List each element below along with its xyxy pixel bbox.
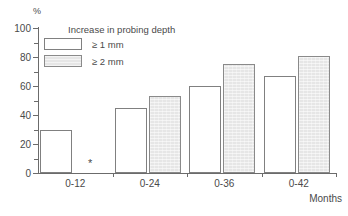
x-axis-title: Months <box>309 193 342 204</box>
y-axis-tick-label: 0 <box>5 168 31 179</box>
y-axis-tick-label: 80 <box>5 52 31 63</box>
legend-item-series-a: ≥ 1 mm <box>44 38 124 50</box>
legend-swatch-series-b <box>44 55 82 67</box>
bar-0-42-series-b <box>298 56 330 173</box>
legend-label-series-b: ≥ 2 mm <box>92 56 124 67</box>
missing-data-asterisk: * <box>88 158 92 169</box>
bar-0-36-series-b <box>223 64 255 173</box>
x-axis-tick-label: 0-42 <box>289 178 309 189</box>
y-axis-tick-labels: 020406080100 <box>0 0 31 216</box>
bar-chart: % 020406080100 0-120-240-360-42 Months *… <box>0 0 348 216</box>
x-axis-tick-label: 0-12 <box>65 178 85 189</box>
legend-item-series-b: ≥ 2 mm <box>44 55 124 67</box>
y-axis-tick-label: 20 <box>5 139 31 150</box>
legend-swatch-series-a <box>44 38 82 50</box>
x-axis-tick-label: 0-24 <box>140 178 160 189</box>
bar-0-36-series-a <box>189 86 221 173</box>
x-axis-tick <box>113 173 114 177</box>
legend-label-series-a: ≥ 1 mm <box>92 39 124 50</box>
y-axis-unit-label: % <box>33 6 41 16</box>
x-axis-tick <box>262 173 263 177</box>
legend-title: Increase in probing depth <box>68 24 175 35</box>
bar-0-24-series-a <box>115 108 147 173</box>
x-axis-tick <box>336 173 337 177</box>
y-axis-tick-label: 100 <box>5 23 31 34</box>
bar-0-24-series-b <box>149 96 181 173</box>
x-axis-tick-label: 0-36 <box>214 178 234 189</box>
y-axis-tick-label: 40 <box>5 110 31 121</box>
bar-0-42-series-a <box>264 76 296 173</box>
x-axis-tick <box>187 173 188 177</box>
y-axis-tick-label: 60 <box>5 81 31 92</box>
bar-0-12-series-a <box>40 130 72 174</box>
